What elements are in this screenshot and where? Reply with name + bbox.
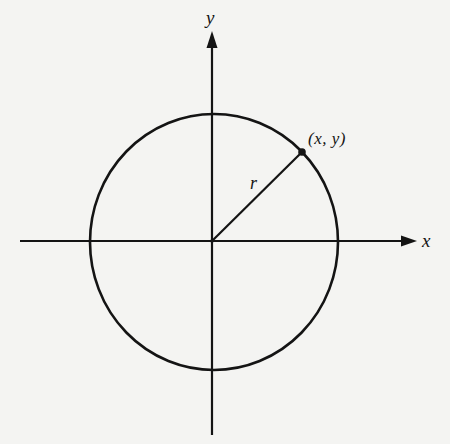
radius-line (212, 152, 302, 241)
x-axis-arrow-icon (401, 236, 417, 247)
y-axis-arrow-icon (207, 31, 218, 48)
diagram-svg (0, 0, 450, 444)
point-label: (x, y) (308, 130, 346, 147)
unit-circle-diagram: y x (x, y) r (0, 0, 450, 444)
origin-marker (210, 239, 214, 243)
y-axis-label: y (206, 8, 214, 27)
x-axis-label: x (422, 231, 430, 250)
point-marker (298, 148, 306, 156)
radius-label: r (250, 174, 257, 192)
